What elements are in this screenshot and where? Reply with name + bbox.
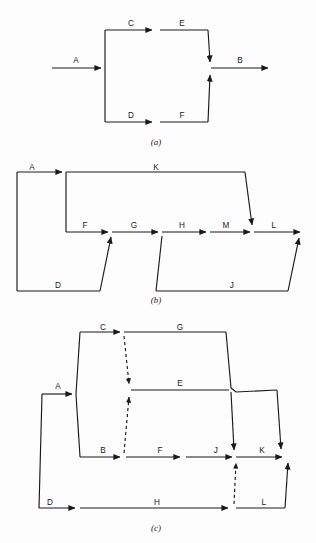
- edge-c-split-upper: [76, 332, 80, 394]
- diagram-c: A C G E B F J K D H L (c): [39, 323, 288, 533]
- label-a-E: E: [179, 19, 185, 28]
- label-b-H: H: [179, 221, 185, 230]
- label-b-M: M: [222, 221, 229, 230]
- label-c-H: H: [154, 498, 160, 507]
- edge-c-G-descent: [226, 332, 231, 388]
- label-c-K: K: [259, 446, 265, 455]
- edge-c-left-vertical: [39, 394, 42, 508]
- label-a-D: D: [128, 111, 134, 120]
- label-b-K: K: [153, 163, 159, 172]
- label-c-D: D: [47, 498, 53, 507]
- label-a-A: A: [73, 56, 79, 65]
- network-diagram-svg: A C E D F B (a): [0, 0, 316, 543]
- label-c-A: A: [55, 382, 61, 391]
- label-b-J: J: [230, 281, 234, 290]
- label-c-F: F: [157, 446, 162, 455]
- figure-container: A C E D F B (a): [0, 0, 316, 543]
- label-c-C: C: [100, 323, 106, 332]
- label-c-B: B: [100, 446, 106, 455]
- edge-b-D-riser: [100, 237, 111, 291]
- edge-c-junction: [231, 388, 277, 392]
- edge-b-K-descent: [245, 172, 252, 225]
- label-c-E: E: [177, 379, 183, 388]
- label-b-L: L: [272, 221, 277, 230]
- edge-c-dummy-B-to-E: [124, 397, 129, 453]
- diagram-a: A C E D F B (a): [52, 19, 268, 147]
- label-c-L: L: [262, 498, 267, 507]
- label-b-A: A: [29, 163, 35, 172]
- edge-c-junction-descent: [231, 392, 234, 450]
- label-a-C: C: [128, 19, 134, 28]
- caption-a: (a): [151, 137, 162, 147]
- label-b-F: F: [82, 221, 87, 230]
- edge-a-right-down: [208, 30, 210, 62]
- caption-b: (b): [151, 295, 162, 305]
- edge-c-dummy-H-to-J: [234, 463, 236, 504]
- edge-c-right-descent: [277, 390, 281, 449]
- label-a-F: F: [179, 111, 184, 120]
- label-a-B: B: [237, 56, 243, 65]
- edge-a-right-up: [208, 75, 210, 122]
- edge-b-J-riser: [288, 238, 299, 291]
- label-c-G: G: [177, 323, 184, 332]
- label-b-D: D: [55, 281, 61, 290]
- edge-b-J-descent: [156, 236, 162, 291]
- caption-c: (c): [151, 523, 161, 533]
- label-b-G: G: [131, 221, 138, 230]
- edge-c-L-riser: [285, 463, 288, 508]
- label-c-J: J: [214, 446, 218, 455]
- diagram-b: A K F G H M L D J (b): [17, 163, 300, 305]
- edge-c-split-lower: [76, 394, 80, 457]
- edge-c-dummy-C-to-E: [124, 336, 129, 384]
